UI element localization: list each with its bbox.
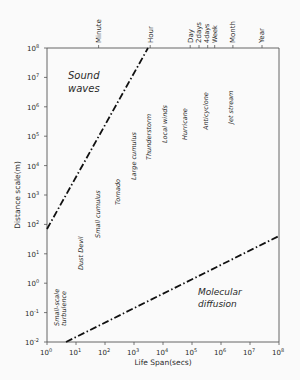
svg-text:107: 107	[243, 347, 255, 357]
svg-text:104: 104	[27, 161, 39, 171]
top-axis-labels: Minute Hour Day 2days 4days Week Month Y…	[95, 19, 266, 44]
svg-text:100: 100	[27, 278, 39, 288]
svg-text:101: 101	[69, 347, 81, 357]
svg-text:Small cumulus: Small cumulus	[94, 190, 102, 238]
svg-text:Dust Devil: Dust Devil	[77, 236, 85, 270]
svg-text:Week: Week	[211, 25, 219, 43]
svg-text:turbulence: turbulence	[60, 291, 68, 326]
y-axis-title: Distance scale(m)	[13, 161, 22, 229]
svg-text:101: 101	[27, 249, 39, 259]
svg-text:108: 108	[27, 43, 39, 53]
svg-text:Day: Day	[187, 29, 195, 43]
svg-text:Jet stream: Jet stream	[227, 91, 235, 126]
svg-text:Hurricane: Hurricane	[181, 108, 189, 140]
molecular-diffusion-line	[66, 236, 279, 342]
x-tick-labels: 100 101 102 103 104 105 106 107 108	[40, 347, 284, 357]
svg-text:Year: Year	[258, 28, 266, 44]
svg-text:Tornado: Tornado	[114, 179, 122, 205]
svg-text:105: 105	[185, 347, 197, 357]
svg-text:diffusion: diffusion	[198, 299, 237, 309]
x-axis-title: Life Span(secs)	[134, 358, 191, 367]
svg-text:107: 107	[27, 72, 39, 82]
svg-text:Month: Month	[229, 21, 237, 43]
svg-text:103: 103	[127, 347, 139, 357]
svg-text:10-1: 10-1	[25, 308, 39, 318]
svg-text:104: 104	[156, 347, 168, 357]
svg-text:Large cumulus: Large cumulus	[130, 131, 138, 180]
svg-text:103: 103	[27, 190, 39, 200]
svg-text:10-2: 10-2	[25, 337, 39, 347]
y-tick-labels: 10-2 10-1 100 101 102 103 104 105 106 10…	[25, 43, 39, 347]
svg-text:Sound: Sound	[68, 70, 100, 81]
chart: 10-2 10-1 100 101 102 103 104 105 106 10…	[0, 0, 300, 380]
svg-text:105: 105	[27, 131, 39, 141]
svg-text:102: 102	[98, 347, 110, 357]
svg-text:106: 106	[27, 102, 39, 112]
svg-text:Thunderstorm: Thunderstorm	[145, 114, 153, 160]
svg-text:Local winds: Local winds	[161, 105, 169, 143]
svg-text:102: 102	[27, 219, 39, 229]
svg-text:106: 106	[214, 347, 226, 357]
svg-text:Hour: Hour	[147, 26, 155, 43]
x-ticks	[47, 342, 279, 345]
svg-text:108: 108	[272, 347, 284, 357]
svg-text:waves: waves	[68, 83, 100, 94]
region-labels: Sound waves Molecular diffusion	[68, 70, 243, 309]
svg-text:100: 100	[40, 347, 52, 357]
svg-text:Anticyclone: Anticyclone	[202, 92, 210, 131]
svg-text:Minute: Minute	[95, 19, 103, 43]
svg-text:Molecular: Molecular	[198, 287, 243, 297]
